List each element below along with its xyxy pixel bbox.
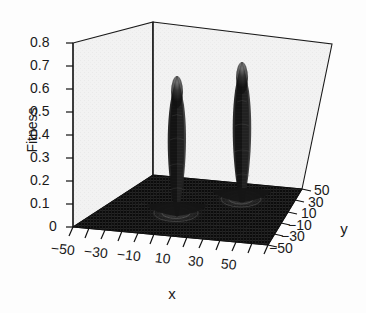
z-axis-ticks bbox=[66, 43, 73, 227]
x-tick-label-3: 10 bbox=[154, 249, 171, 267]
z-tick-label-0: 0.8 bbox=[30, 34, 49, 50]
x-axis-title: x bbox=[160, 285, 184, 302]
z-tick-label-8: 0 bbox=[49, 218, 57, 234]
x-tick-label-2: −10 bbox=[116, 246, 141, 264]
x-tick-label-5: 50 bbox=[220, 255, 237, 273]
z-tick-label-7: 0.1 bbox=[30, 195, 49, 211]
y-axis-title: y bbox=[336, 220, 352, 237]
x-tick-label-1: −30 bbox=[83, 243, 108, 261]
surface-plot-figure: 0.8 0.7 0.6 0.5 0.4 0.3 0.2 0.1 0 Fitnes… bbox=[0, 0, 366, 313]
z-tick-label-1: 0.7 bbox=[30, 57, 49, 73]
z-axis-title: Fitness bbox=[24, 94, 40, 166]
x-tick-label-0: −50 bbox=[50, 240, 75, 258]
z-tick-label-6: 0.2 bbox=[30, 172, 49, 188]
plot-canvas bbox=[0, 0, 366, 313]
y-tick-label-5: −50 bbox=[269, 240, 293, 256]
x-tick-label-4: 30 bbox=[187, 252, 204, 270]
